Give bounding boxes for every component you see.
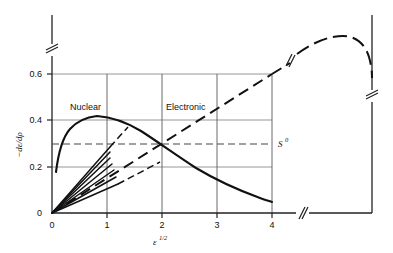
x-axis-title-base: ε [153, 237, 157, 247]
ytick-label-0.2: 0.2 [29, 162, 42, 172]
y-break-stroke-2 [46, 44, 58, 50]
elec-break-stroke-2 [289, 55, 295, 67]
x-break-stroke-1 [299, 207, 305, 219]
x-axis-break-icon [299, 207, 308, 219]
xtick-label-4: 4 [269, 220, 274, 230]
right-break-stroke-2 [366, 90, 378, 96]
figure-container: 0.6 0.4 0.2 0 0 1 2 3 4 Nuclear Electron… [0, 0, 393, 253]
fan-ray-5 [52, 170, 114, 213]
ytick-label-0: 0 [37, 208, 42, 218]
xtick-label-0: 0 [49, 220, 54, 230]
y-tick-marks [47, 74, 52, 167]
right-axis-break-icon [366, 90, 378, 99]
annotation-s0: S 0 [278, 136, 289, 149]
fan-ext-lower [118, 162, 160, 184]
annotation-electronic: Electronic [166, 102, 206, 112]
chart-svg: 0.6 0.4 0.2 0 0 1 2 3 4 Nuclear Electron… [0, 0, 393, 253]
fan-ray-7 [52, 184, 118, 213]
xtick-label-2: 2 [159, 220, 164, 230]
xtick-label-1: 1 [104, 220, 109, 230]
y-break-stroke-1 [46, 47, 58, 53]
x-tick-marks [107, 213, 272, 218]
y-axis-break-icon [46, 44, 58, 53]
y-axis-title: −dε/dρ [14, 132, 24, 158]
xtick-label-3: 3 [214, 220, 219, 230]
x-axis-title-superscript: 1/2 [159, 234, 168, 241]
s0-label-superscript: 0 [285, 136, 289, 143]
electronic-curve-post-break [297, 36, 372, 78]
x-axis-title: ε 1/2 [153, 234, 168, 247]
annotation-nuclear: Nuclear [70, 102, 101, 112]
x-break-stroke-2 [302, 207, 308, 219]
right-break-stroke-1 [366, 93, 378, 99]
s0-label-base: S [278, 139, 283, 149]
fan-dashed-extensions [110, 127, 160, 184]
fan-ray-4 [52, 164, 112, 213]
ytick-label-0.4: 0.4 [29, 115, 42, 125]
fan-rays-group [52, 147, 118, 213]
ytick-label-0.6: 0.6 [29, 69, 42, 79]
